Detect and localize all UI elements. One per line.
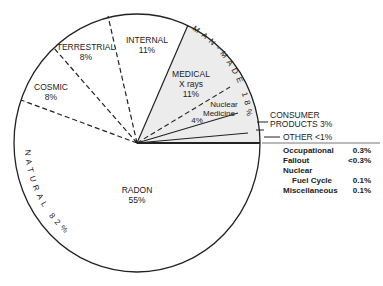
table-label-fuel-cycle: Fuel Cycle [292, 176, 333, 185]
pie-chart: RADON 55% COSMIC 8% TERRESTRIAL 8% INTER… [0, 0, 383, 286]
label-nuclear: Nuclear [210, 100, 238, 109]
label-radon: RADON [122, 185, 153, 195]
table-label-occupational: Occupational [283, 146, 334, 155]
label-internal: INTERNAL [126, 35, 168, 45]
table-label-fallout: Fallout [283, 156, 310, 165]
label-medical: MEDICAL [172, 69, 210, 79]
table-value-fuel-cycle: 0.1% [353, 176, 371, 185]
table-value-miscellaneous: 0.1% [353, 186, 371, 195]
label-terrestrial-pct: 8% [80, 52, 93, 62]
label-other: OTHER <1% [283, 132, 333, 142]
label-products: PRODUCTS 3% [270, 119, 333, 129]
label-medicine: Medicine [203, 109, 236, 118]
table-label-nuclear: Nuclear [283, 166, 312, 175]
divider-cosmic-terrestrial [53, 47, 137, 143]
table-label-miscellaneous: Miscellaneous [283, 186, 338, 195]
divider-radon-cosmic [21, 100, 137, 143]
label-cosmic: COSMIC [34, 82, 68, 92]
label-radon-pct: 55% [128, 195, 145, 205]
table-value-occupational: 0.3% [353, 146, 371, 155]
label-natural-group: NATURAL 82% [23, 149, 73, 237]
table-value-fallout: <0.3% [348, 156, 371, 165]
label-nuclear-pct: 4% [191, 116, 203, 125]
label-internal-pct: 11% [139, 45, 156, 55]
label-xrays: X rays [179, 79, 203, 89]
label-terrestrial: TERRESTRIAL [57, 42, 116, 52]
label-cosmic-pct: 8% [45, 92, 58, 102]
label-xrays-pct: 11% [183, 89, 200, 99]
